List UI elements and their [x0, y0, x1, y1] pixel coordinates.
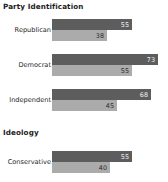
bar-democrat-series-1[interactable]: 73 [52, 54, 158, 65]
bar-value-republican-series-1: 55 [121, 21, 129, 28]
bar-republican-series-2[interactable]: 38 [52, 30, 107, 41]
bar-value-democrat-series-1: 73 [147, 56, 155, 63]
bar-independent-series-2[interactable]: 45 [52, 100, 117, 111]
bar-conservative-series-1[interactable]: 55 [52, 151, 132, 162]
bar-republican-series-1[interactable]: 55 [52, 19, 132, 30]
bar-value-conservative-series-2: 40 [99, 164, 107, 171]
grouped-bar-chart: Party Identification Republican 55 38 De… [0, 0, 168, 182]
section-heading-party-identification: Party Identification [3, 2, 83, 11]
bar-democrat-series-2[interactable]: 55 [52, 65, 132, 76]
category-label-democrat: Democrat [0, 61, 51, 69]
bar-value-independent-series-2: 45 [106, 102, 114, 109]
bar-value-republican-series-2: 38 [96, 32, 104, 39]
category-label-independent: Independent [0, 96, 51, 104]
section-heading-ideology: Ideology [3, 128, 39, 137]
bar-value-independent-series-1: 68 [140, 91, 148, 98]
category-label-republican: Republican [0, 26, 51, 34]
bar-value-democrat-series-2: 55 [121, 67, 129, 74]
bar-value-conservative-series-1: 55 [121, 153, 129, 160]
category-label-conservative: Conservative [0, 158, 51, 166]
bar-independent-series-1[interactable]: 68 [52, 89, 151, 100]
bar-conservative-series-2[interactable]: 40 [52, 162, 110, 173]
